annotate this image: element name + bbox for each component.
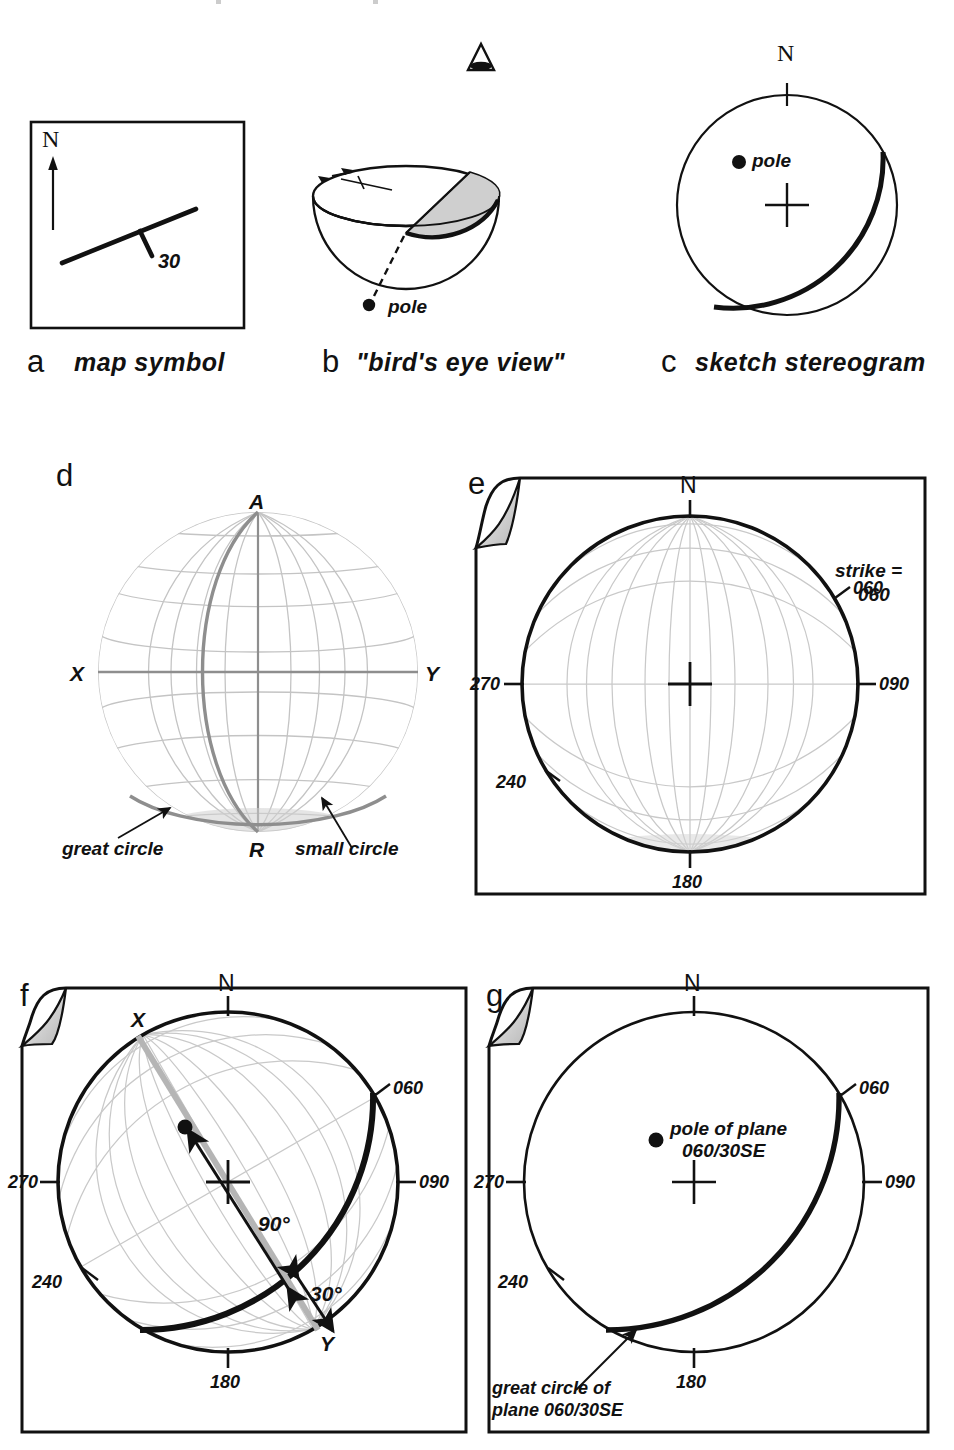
triangle-icon bbox=[468, 44, 494, 70]
pole-dot bbox=[732, 155, 746, 169]
panel-c-north-label: N bbox=[777, 40, 794, 67]
panel-f-axis-y: Y bbox=[320, 1332, 334, 1356]
panel-f-north-label: N bbox=[218, 970, 235, 997]
panel-c-letter: c bbox=[661, 344, 677, 380]
panel-g-stereonet-plain bbox=[489, 988, 928, 1432]
panel-c-sketch-stereogram bbox=[677, 83, 897, 315]
panel-g-tick-060: 060 bbox=[859, 1078, 889, 1099]
top-crop-marks bbox=[216, 0, 378, 4]
panel-e-strike-annotation-line1: strike = bbox=[835, 560, 902, 581]
panel-d-sphere bbox=[98, 512, 418, 848]
panel-f-angle-90: 90° bbox=[258, 1212, 290, 1236]
panel-f-tick-180: 180 bbox=[210, 1372, 240, 1393]
panel-b-letter: b bbox=[322, 344, 339, 380]
panel-a-map-symbol bbox=[31, 122, 244, 328]
panel-a-north-label: N bbox=[42, 126, 59, 153]
panel-f-axis-x: X bbox=[131, 1008, 145, 1032]
panel-g-pole-line2: 060/30SE bbox=[682, 1140, 765, 1161]
panel-c-pole-label: pole bbox=[752, 150, 791, 171]
panel-d-label-left: X bbox=[70, 662, 84, 686]
panel-f-angle-30: 30° bbox=[310, 1282, 342, 1306]
panel-e-tick-180: 180 bbox=[672, 872, 702, 893]
panel-f-tick-240: 240 bbox=[32, 1272, 62, 1293]
panel-d-small-circle-label: small circle bbox=[295, 838, 399, 859]
pole-dot bbox=[178, 1120, 193, 1135]
panel-f-letter: f bbox=[20, 978, 29, 1014]
figure-root: N 30 a map symbol pole b "bird's eye vie… bbox=[0, 0, 954, 1450]
panel-g-tick-180: 180 bbox=[676, 1372, 706, 1393]
center-cross-icon bbox=[765, 183, 809, 227]
panel-g-north-label: N bbox=[684, 970, 701, 997]
panel-d-label-top: A bbox=[249, 490, 264, 514]
panel-e-north-label: N bbox=[680, 472, 697, 499]
panel-a-caption: map symbol bbox=[74, 348, 225, 377]
panel-a-dip-value: 30 bbox=[158, 250, 180, 273]
panel-f-tick-090: 090 bbox=[419, 1172, 449, 1193]
pole-dot bbox=[649, 1133, 664, 1148]
panel-e-stereonet bbox=[476, 478, 925, 894]
panel-g-gc-line2: plane 060/30SE bbox=[492, 1400, 623, 1421]
panel-g-letter: g bbox=[486, 978, 503, 1014]
panel-d-great-circle-label: great circle bbox=[62, 838, 163, 859]
panel-e-tick-240: 240 bbox=[496, 772, 526, 793]
panel-d-label-bottom: R bbox=[249, 838, 264, 862]
panel-g-tick-270: 270 bbox=[474, 1172, 504, 1193]
panel-f-tick-270: 270 bbox=[8, 1172, 38, 1193]
panel-c-caption: sketch stereogram bbox=[695, 348, 926, 377]
panel-d-letter: d bbox=[56, 458, 73, 494]
panel-b-pole-label: pole bbox=[388, 296, 427, 317]
panel-g-gc-line1: great circle of bbox=[492, 1378, 610, 1399]
panel-f-tick-060: 060 bbox=[393, 1078, 423, 1099]
panel-e-strike-annotation-line2: 060 bbox=[858, 584, 890, 605]
panel-e-letter: e bbox=[468, 466, 485, 502]
panel-g-pole-line1: pole of plane bbox=[670, 1118, 787, 1139]
figure-canvas bbox=[0, 0, 954, 1450]
panel-a-letter: a bbox=[27, 344, 44, 380]
panel-e-tick-270: 270 bbox=[470, 674, 500, 695]
panel-g-tick-090: 090 bbox=[885, 1172, 915, 1193]
panel-d-label-right: Y bbox=[425, 662, 439, 686]
pole-dot bbox=[363, 299, 375, 311]
panel-g-tick-240: 240 bbox=[498, 1272, 528, 1293]
panel-b-caption: "bird's eye view" bbox=[356, 348, 565, 377]
panel-f-stereonet-rotated bbox=[0, 942, 466, 1432]
panel-e-tick-090: 090 bbox=[879, 674, 909, 695]
panel-b-hemisphere bbox=[313, 166, 500, 311]
sphere-grid bbox=[98, 512, 418, 840]
